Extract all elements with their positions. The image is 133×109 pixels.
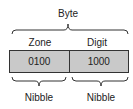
zone-cell: 0100 [10, 51, 69, 72]
digit-cell: 1000 [69, 51, 129, 72]
digit-label: Digit [77, 38, 117, 48]
byte-label: Byte [53, 9, 83, 19]
digit-nibble-brace [72, 77, 128, 86]
byte-brace [12, 24, 128, 34]
zone-nibble-brace [12, 77, 66, 86]
zone-nibble-label: Nibble [19, 93, 59, 103]
digit-nibble-label: Nibble [81, 93, 121, 103]
byte-box: 0100 1000 [9, 50, 129, 73]
zone-label: Zone [20, 38, 60, 48]
